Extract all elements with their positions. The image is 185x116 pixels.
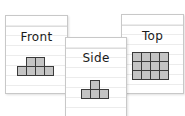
side-view-label: Side (66, 51, 126, 65)
front-view-label: Front (6, 30, 67, 44)
front-view-card: Front (5, 15, 68, 94)
top-view-card: Top (121, 14, 184, 94)
top-view-label: Top (122, 29, 183, 43)
top-block (159, 70, 169, 80)
card-header-rule (66, 48, 126, 49)
card-header-rule (6, 26, 67, 27)
side-block (99, 89, 109, 99)
front-block (44, 66, 54, 76)
card-header-rule (122, 25, 183, 26)
side-view-card: Side (65, 37, 127, 116)
orthographic-views-diagram: Front Top Side (0, 0, 185, 116)
